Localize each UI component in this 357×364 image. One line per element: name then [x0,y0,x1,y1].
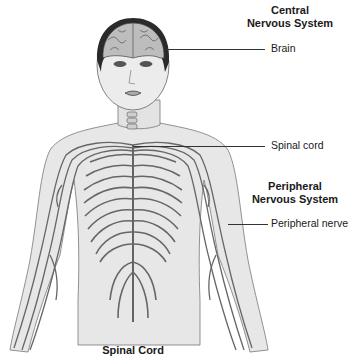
peripheral-nervous-system-heading: Peripheral Nervous System [245,180,345,206]
central-heading-line2: Nervous System [235,17,345,30]
spinal-cord-label: Spinal cord [271,139,324,151]
central-nervous-system-heading: Central Nervous System [235,4,345,30]
peripheral-nerve-leader-line [228,224,268,225]
peripheral-heading-line1: Peripheral [245,180,345,193]
central-heading-line1: Central [235,4,345,17]
spinal-cord-leader-line [133,146,265,147]
brain-label: Brain [271,42,296,54]
cervical-spine [127,112,137,129]
peripheral-nerve-label: Peripheral nerve [271,217,348,229]
figure-caption: Spinal Cord [83,344,183,357]
brain-leader-line [165,49,265,50]
peripheral-heading-line2: Nervous System [245,193,345,206]
body-silhouette [10,123,268,352]
